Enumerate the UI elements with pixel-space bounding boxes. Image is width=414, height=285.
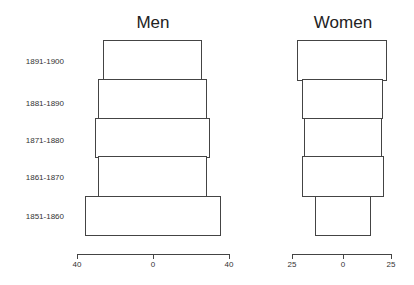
- period-label: 1871-1880: [4, 136, 64, 145]
- men-bar-1851-1860: [85, 196, 221, 236]
- tick-label: 25: [288, 260, 297, 269]
- tick: [292, 254, 293, 259]
- men-bar-1871-1880: [95, 118, 210, 158]
- women-axis-line: [292, 254, 392, 255]
- tick-label: 25: [387, 260, 396, 269]
- period-label: 1891-1900: [4, 57, 64, 66]
- men-bar-1861-1870: [98, 156, 207, 197]
- tick-label: 40: [225, 260, 234, 269]
- tick-label: 0: [151, 260, 155, 269]
- tick: [343, 254, 344, 259]
- men-chart-title: Men: [136, 13, 169, 33]
- women-bar-1891-1900: [297, 40, 387, 81]
- period-label: 1861-1870: [4, 173, 64, 182]
- tick: [77, 254, 78, 259]
- tick-label: 0: [341, 260, 345, 269]
- men-bar-1891-1900: [103, 40, 202, 81]
- y-axis-labels: 1891-1900 1881-1890 1871-1880 1861-1870 …: [0, 0, 64, 285]
- tick-label: 40: [73, 260, 82, 269]
- men-bar-1881-1890: [98, 79, 207, 119]
- period-label: 1851-1860: [4, 212, 64, 221]
- women-chart-title: Women: [314, 13, 372, 33]
- tick: [229, 254, 230, 259]
- women-bar-1881-1890: [302, 79, 383, 119]
- women-bar-1851-1860: [315, 196, 371, 236]
- period-label: 1881-1890: [4, 99, 64, 108]
- women-bar-1871-1880: [304, 118, 382, 158]
- tick: [153, 254, 154, 259]
- tick: [391, 254, 392, 259]
- women-bar-1861-1870: [302, 156, 384, 197]
